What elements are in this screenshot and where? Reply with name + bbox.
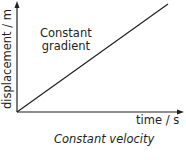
y-axis-label: displacement / m — [0, 4, 14, 114]
annotation-line-2: gradient — [40, 40, 92, 53]
chart-caption: Constant velocity — [54, 132, 154, 146]
gradient-annotation: Constant gradient — [40, 27, 92, 53]
x-axis-label: time / s — [136, 113, 179, 127]
chart-figure: displacement / m time / s Constant gradi… — [0, 0, 186, 160]
data-line — [17, 4, 168, 112]
y-axis-arrow-icon — [15, 1, 20, 8]
